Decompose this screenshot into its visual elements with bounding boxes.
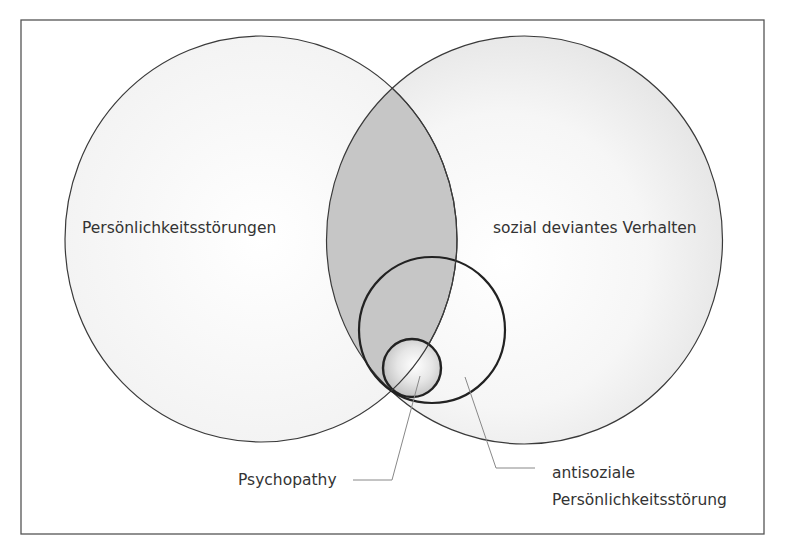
- label-antisocial-line2: Persönlichkeitsstörung: [552, 491, 727, 509]
- label-antisocial-line1: antisoziale: [552, 464, 635, 482]
- label-personality-disorders: Persönlichkeitsstörungen: [82, 219, 276, 237]
- venn-diagram: Persönlichkeitsstörungen sozial deviante…: [0, 0, 785, 543]
- label-socially-deviant: sozial deviantes Verhalten: [493, 219, 697, 237]
- label-psychopathy: Psychopathy: [238, 471, 337, 489]
